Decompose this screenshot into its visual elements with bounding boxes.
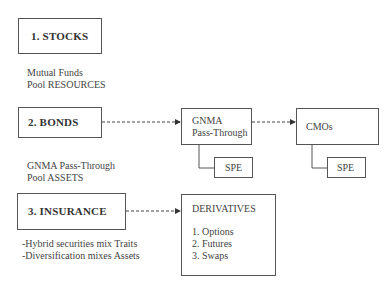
bonds-notes: GNMA Pass-Through Pool ASSETS <box>27 160 115 184</box>
derivatives-box: DERIVATIVES 1. Options 2. Futures 3. Swa… <box>181 194 276 276</box>
stocks-box: 1. STOCKS <box>18 18 102 54</box>
derivatives-title: DERIVATIVES <box>192 203 256 215</box>
gnma-label: GNMA <box>192 115 248 127</box>
derivatives-item: 3. Swaps <box>192 250 234 262</box>
gnma-spe-label: SPE <box>225 162 242 174</box>
cmos-spe-box: SPE <box>327 157 366 178</box>
gnma-box: GNMA Pass-Through <box>181 108 252 145</box>
stocks-notes: Mutual Funds Pool RESOURCES <box>27 67 106 91</box>
insurance-box: 3. INSURANCE <box>17 193 126 230</box>
insurance-title: 3. INSURANCE <box>28 205 107 217</box>
derivatives-item: 1. Options <box>192 226 234 238</box>
connector-cmos-spe <box>312 145 327 168</box>
gnma-spe-box: SPE <box>214 157 253 178</box>
cmos-label: CMOs <box>306 121 333 133</box>
gnma-sublabel: Pass-Through <box>192 127 248 139</box>
derivatives-item: 2. Futures <box>192 238 234 250</box>
bonds-box: 2. BONDS <box>18 107 102 138</box>
connector-gnma-spe <box>199 144 214 168</box>
stocks-title: 1. STOCKS <box>31 30 88 42</box>
cmos-box: CMOs <box>296 108 379 145</box>
cmos-spe-label: SPE <box>337 162 354 174</box>
bonds-title: 2. BONDS <box>28 116 79 128</box>
derivatives-list: 1. Options 2. Futures 3. Swaps <box>192 226 234 262</box>
insurance-notes: -Hybrid securities mix Traits -Diversifi… <box>22 238 140 262</box>
